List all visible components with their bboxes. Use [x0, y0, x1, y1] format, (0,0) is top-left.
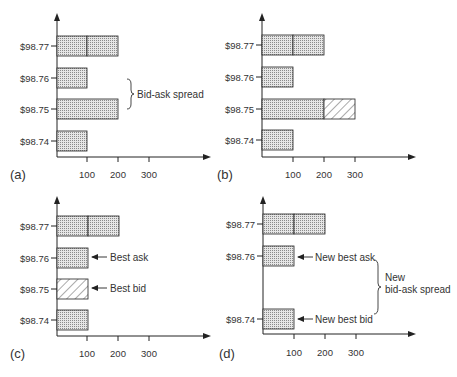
y-label: $98.77 — [20, 41, 49, 52]
panel-b: $98.77 $98.76 $98.75 $98.74 100 200 300 … — [217, 13, 416, 182]
order-book-figure: $98.77 $98.76 $98.75 $98.74 100 200 300 … — [0, 0, 457, 377]
bar-segment — [294, 214, 325, 234]
y-label: $98.77 — [226, 219, 255, 230]
y-label: $98.76 — [20, 253, 49, 264]
bar-segment-best-bid — [57, 279, 88, 299]
y-label: $98.74 — [226, 314, 255, 325]
y-label: $98.75 — [225, 104, 254, 115]
bar-segment — [263, 246, 294, 266]
brace-icon — [127, 79, 134, 109]
y-label: $98.77 — [20, 221, 49, 232]
y-label: $98.76 — [226, 251, 255, 262]
y-axis-arrow-icon — [54, 196, 60, 204]
bar-segment — [263, 309, 294, 329]
bar-segment — [262, 99, 324, 119]
bar-segment — [57, 99, 118, 119]
bar-segment — [88, 216, 119, 236]
bar-segment — [57, 68, 87, 88]
new-spread-label-line1: New — [385, 272, 406, 283]
y-axis-arrow-icon — [260, 196, 266, 204]
bar-segment — [262, 67, 293, 87]
x-axis-arrow-icon — [203, 333, 211, 339]
bar-segment — [87, 36, 118, 56]
y-label: $98.77 — [225, 40, 254, 51]
x-axis-arrow-icon — [408, 331, 416, 337]
y-label: $98.76 — [20, 73, 49, 84]
y-label: $98.74 — [20, 136, 49, 147]
bar-segment — [57, 36, 87, 56]
best-bid-label: Best bid — [110, 283, 146, 294]
x-tick-label: 100 — [79, 348, 95, 359]
x-tick-label: 100 — [285, 169, 301, 180]
new-best-bid-label: New best bid — [315, 314, 373, 325]
panel-d: $98.77 $98.76 $98.74 100 200 300 New bes… — [219, 196, 451, 361]
y-label: $98.75 — [20, 284, 49, 295]
x-tick-label: 300 — [141, 169, 157, 180]
x-axis-arrow-icon — [408, 154, 416, 160]
new-best-ask-label: New best ask — [315, 252, 376, 263]
bar-segment-new-order — [324, 99, 355, 119]
bar-segment — [57, 216, 88, 236]
brace-icon — [374, 260, 381, 314]
bar-segment — [57, 310, 88, 330]
x-tick-label: 200 — [316, 169, 332, 180]
bid-ask-spread-label: Bid-ask spread — [137, 89, 204, 100]
x-tick-label: 100 — [286, 347, 302, 358]
x-tick-label: 200 — [317, 347, 333, 358]
panel-a: $98.77 $98.76 $98.75 $98.74 100 200 300 … — [10, 13, 211, 182]
bar-segment — [262, 130, 293, 150]
x-axis-arrow-icon — [203, 154, 211, 160]
x-tick-label: 300 — [348, 347, 364, 358]
x-tick-label: 200 — [110, 169, 126, 180]
y-label: $98.75 — [20, 104, 49, 115]
x-tick-label: 300 — [141, 348, 157, 359]
x-tick-label: 300 — [347, 169, 363, 180]
bar-segment — [57, 248, 88, 268]
bar-segment — [293, 35, 324, 55]
bar-segment — [262, 35, 293, 55]
y-label: $98.74 — [20, 315, 49, 326]
bar-segment — [263, 214, 294, 234]
x-tick-label: 100 — [79, 169, 95, 180]
panel-label: (b) — [217, 167, 233, 182]
panel-c: $98.77 $98.76 $98.75 $98.74 100 200 300 … — [10, 196, 211, 361]
y-axis-arrow-icon — [259, 13, 265, 21]
panel-label: (c) — [10, 346, 25, 361]
new-spread-label-line2: bid-ask spread — [385, 284, 451, 295]
best-ask-label: Best ask — [110, 252, 149, 263]
bar-segment — [57, 131, 87, 151]
panel-label: (a) — [10, 167, 26, 182]
y-label: $98.76 — [225, 72, 254, 83]
y-label: $98.74 — [225, 135, 254, 146]
x-tick-label: 200 — [110, 348, 126, 359]
y-axis-arrow-icon — [54, 13, 60, 21]
panel-label: (d) — [219, 346, 235, 361]
